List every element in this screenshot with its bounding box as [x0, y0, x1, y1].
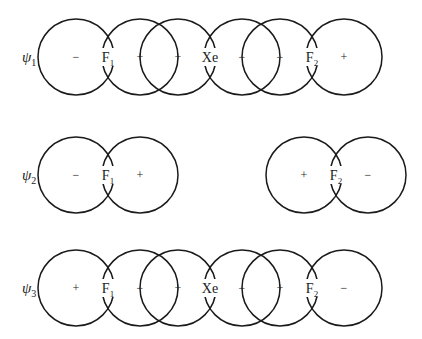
phase-plus-sign: +: [277, 281, 284, 295]
orbital-row-psi3: ψ3+−+−+−F1XeF2: [22, 250, 382, 326]
wavefunction-label: ψ2: [22, 167, 36, 186]
phase-plus-sign: +: [175, 281, 182, 295]
phase-minus-sign: −: [341, 281, 348, 295]
wavefunction-label: ψ1: [22, 49, 36, 68]
phase-plus-sign: +: [73, 281, 80, 295]
phase-minus-sign: −: [73, 168, 80, 182]
phase-plus-sign: +: [175, 50, 182, 64]
phase-minus-sign: −: [365, 168, 372, 182]
orbital-row-psi1: ψ1−++−−+F1XeF2: [22, 19, 382, 95]
phase-plus-sign: +: [301, 168, 308, 182]
orbital-row-psi2: ψ2−++−F1F2: [22, 137, 406, 213]
wavefunction-label: ψ3: [22, 280, 36, 299]
atom-label: Xe: [202, 281, 218, 296]
phase-minus-sign: −: [277, 50, 284, 64]
phase-minus-sign: −: [73, 50, 80, 64]
xef2-molecular-orbital-diagram: ψ1−++−−+F1XeF2ψ2−++−F1F2ψ3+−+−+−F1XeF2: [0, 0, 422, 339]
atom-label: Xe: [202, 50, 218, 65]
phase-plus-sign: +: [137, 168, 144, 182]
phase-plus-sign: +: [341, 50, 348, 64]
